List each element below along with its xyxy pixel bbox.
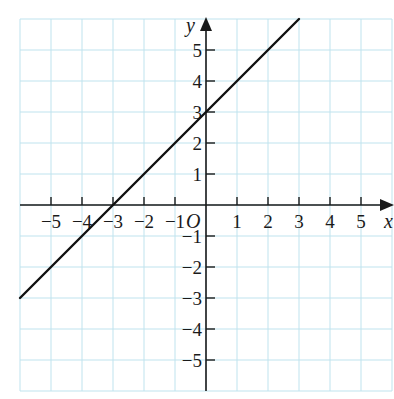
x-tick-label: −2 [134, 211, 154, 232]
y-tick-label: 5 [193, 40, 203, 61]
data-line [20, 19, 299, 298]
origin-label: O [186, 210, 200, 232]
coordinate-plane: −5−4−3−2−11234554321−1−2−3−4−5 x y O [0, 0, 394, 399]
y-tick-label: 2 [193, 133, 203, 154]
x-tick-label: 1 [232, 211, 242, 232]
y-tick-label: −2 [182, 257, 202, 278]
x-tick-label: 5 [356, 211, 366, 232]
y-tick-label: 4 [193, 71, 203, 92]
axes [20, 17, 394, 391]
y-tick-label: 1 [193, 164, 203, 185]
series-line [20, 19, 299, 298]
x-tick-label: −3 [103, 211, 123, 232]
x-tick-label: 2 [263, 211, 273, 232]
x-tick-label: 3 [294, 211, 304, 232]
y-tick-label: −4 [182, 319, 203, 340]
y-tick-label: −3 [182, 288, 202, 309]
y-axis-label: y [184, 14, 195, 37]
x-tick-label: −5 [41, 211, 61, 232]
x-tick-label: 4 [325, 211, 335, 232]
y-tick-label: −5 [182, 350, 202, 371]
x-axis-label: x [383, 210, 393, 232]
